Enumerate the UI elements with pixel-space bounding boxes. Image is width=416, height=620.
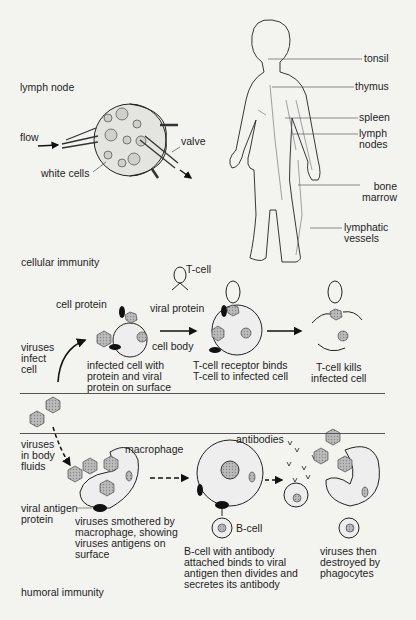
cell-body-label: cell body (152, 341, 193, 352)
white-cells-label: white cells (41, 168, 89, 179)
t-cell-kills-caption: T-cell kills infected cell (311, 362, 366, 384)
bone-marrow-label: bone marrow (362, 181, 397, 203)
spleen-label: spleen (359, 112, 390, 123)
cell-protein-label: cell protein (56, 299, 107, 310)
t-cell-label: T-cell (186, 264, 211, 275)
cellular-immunity-title: cellular immunity (21, 257, 99, 268)
b-cell-label: B-cell (236, 523, 262, 534)
cellular-immunity-illustration (30, 267, 362, 427)
destroyed-caption: viruses then destroyed by phagocytes (320, 546, 380, 579)
viral-antigen-label: viral antigen protein (21, 503, 78, 525)
b-cell-caption: B-cell with antibody attached binds to v… (184, 546, 298, 590)
diagram-artwork (0, 0, 416, 620)
lymph-node-title: lymph node (20, 82, 74, 93)
section-divider-bottom (20, 433, 385, 434)
infected-cell-caption: infected cell with protein and viral pro… (87, 360, 171, 393)
humoral-immunity-title: humoral immunity (21, 587, 104, 598)
child-body-illustration (230, 20, 320, 262)
viruses-infect-cell-label: viruses infect cell (21, 342, 54, 375)
viruses-body-fluids-label: viruses in body fluids (21, 439, 55, 472)
valve-label: valve (181, 136, 206, 147)
flow-label: flow (20, 132, 39, 143)
smothered-caption: viruses smothered by macrophage, showing… (75, 516, 178, 560)
thymus-label: thymus (355, 81, 389, 92)
lymphatic-vessels-label: lymphatic vessels (344, 222, 388, 244)
lymph-nodes-label: lymph nodes (359, 128, 388, 150)
viral-protein-label: viral protein (150, 303, 204, 314)
section-divider-top (20, 393, 385, 394)
macrophage-label: macrophage (125, 444, 183, 455)
receptor-binds-caption: T-cell receptor binds T-cell to infected… (193, 360, 288, 382)
tonsil-label: tonsil (364, 53, 389, 64)
antibodies-label: antibodies (236, 434, 284, 445)
